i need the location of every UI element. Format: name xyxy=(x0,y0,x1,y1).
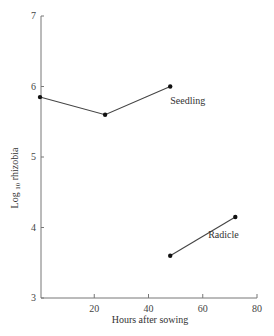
series-radicle: Radicle xyxy=(168,215,239,258)
data-point xyxy=(38,95,42,99)
x-tick-label: 80 xyxy=(252,303,262,314)
y-tick-label: 7 xyxy=(31,10,36,21)
data-point xyxy=(168,84,172,88)
y-axis-title-rest: rhizobia xyxy=(9,147,20,180)
series-line xyxy=(40,87,170,115)
chart: 34567 20406080 SeedlingRadicle Hours aft… xyxy=(0,0,274,336)
y-tick-label: 5 xyxy=(31,151,36,162)
y-axis: 34567 xyxy=(31,10,44,303)
series-seedling: Seedling xyxy=(38,84,205,117)
x-tick-label: 40 xyxy=(144,303,154,314)
series-label: Radicle xyxy=(208,229,239,240)
plot-series: SeedlingRadicle xyxy=(38,84,239,258)
x-tick-label: 20 xyxy=(89,303,99,314)
data-point xyxy=(233,215,237,219)
y-axis-title-log: Log xyxy=(9,192,20,208)
y-axis-title: Log 10 rhizobia xyxy=(9,147,22,208)
y-axis-title-subscript: 10 xyxy=(14,182,22,190)
x-axis: 20406080 xyxy=(41,294,262,314)
x-axis-title: Hours after sowing xyxy=(112,314,189,325)
y-tick-label: 4 xyxy=(31,222,36,233)
x-tick-label: 60 xyxy=(198,303,208,314)
data-point xyxy=(103,113,107,117)
series-label: Seedling xyxy=(170,95,205,106)
data-point xyxy=(168,254,172,258)
y-tick-label: 3 xyxy=(31,292,36,303)
y-tick-label: 6 xyxy=(31,81,36,92)
